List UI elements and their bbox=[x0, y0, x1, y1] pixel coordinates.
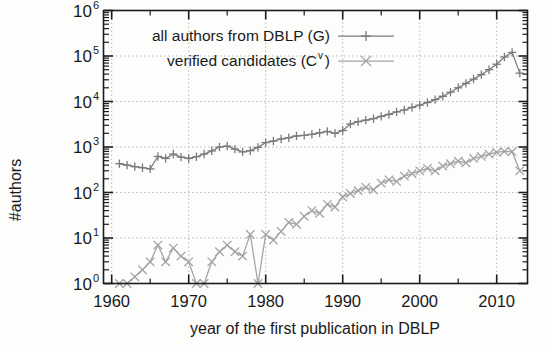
y-tick-label-mantissa: 10 bbox=[73, 275, 92, 294]
y-tick-label-exponent: 5 bbox=[93, 44, 99, 56]
legend-label-superscript: v bbox=[318, 50, 323, 61]
y-tick-label-exponent: 6 bbox=[93, 0, 99, 11]
x-tick-label: 2000 bbox=[401, 292, 438, 310]
y-tick-label-exponent: 2 bbox=[93, 181, 99, 193]
y-tick-label-mantissa: 10 bbox=[73, 2, 92, 21]
legend-label-tail: ) bbox=[325, 52, 330, 69]
legend-label: verified candidates (C bbox=[167, 52, 317, 69]
y-tick-label-exponent: 1 bbox=[93, 226, 99, 238]
legend-label: all authors from DBLP (G) bbox=[152, 27, 330, 44]
y-tick-label-mantissa: 10 bbox=[73, 229, 92, 248]
authors-per-year-log-chart: 100101102103104105106 196019701980199020… bbox=[0, 0, 546, 345]
y-tick-label-exponent: 0 bbox=[93, 272, 99, 284]
x-axis-title-text: year of the first publication in DBLP bbox=[190, 320, 440, 337]
chart-figure: 100101102103104105106 196019701980199020… bbox=[0, 0, 546, 345]
y-tick-label-exponent: 3 bbox=[93, 135, 99, 147]
y-axis-title-text: #authors bbox=[7, 159, 24, 221]
y-tick-label-mantissa: 10 bbox=[73, 184, 92, 203]
x-axis-title: year of the first publication in DBLP bbox=[190, 320, 440, 337]
x-tick-label: 1970 bbox=[170, 292, 207, 310]
y-tick-label-mantissa: 10 bbox=[73, 47, 92, 66]
y-axis-title: #authors bbox=[7, 159, 24, 221]
y-tick-label-mantissa: 10 bbox=[73, 93, 92, 112]
y-tick-label-mantissa: 10 bbox=[73, 138, 92, 157]
x-tick-label: 2010 bbox=[478, 292, 515, 310]
y-tick-label-exponent: 4 bbox=[93, 90, 99, 102]
x-tick-label: 1980 bbox=[247, 292, 284, 310]
x-tick-label: 1990 bbox=[324, 292, 361, 310]
x-tick-label: 1960 bbox=[93, 292, 130, 310]
